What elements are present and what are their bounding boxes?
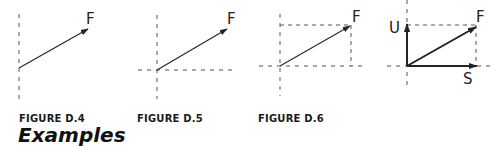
force-vector-arrow-icon: [19, 29, 88, 68]
figure-d5-diagram: F: [138, 10, 236, 99]
figure-d4-diagram: F: [19, 10, 95, 99]
force-label: F: [227, 10, 236, 28]
vertical-component-label: U: [389, 19, 400, 37]
force-label: F: [86, 10, 95, 28]
figure-d7-diagram: U F S: [387, 0, 491, 90]
force-vector-arrow-icon: [157, 29, 227, 70]
figure-caption-d6: FIGURE D.6: [258, 114, 324, 124]
force-vector-arrow-icon: [407, 27, 476, 66]
section-heading: Examples: [18, 124, 126, 146]
force-label: F: [476, 8, 485, 26]
figure-d6-diagram: F: [259, 8, 363, 96]
force-label: F: [352, 8, 361, 26]
force-vector-arrow-icon: [280, 26, 350, 66]
figure-caption-d5: FIGURE D.5: [137, 114, 203, 124]
horizontal-component-label: S: [463, 70, 473, 88]
